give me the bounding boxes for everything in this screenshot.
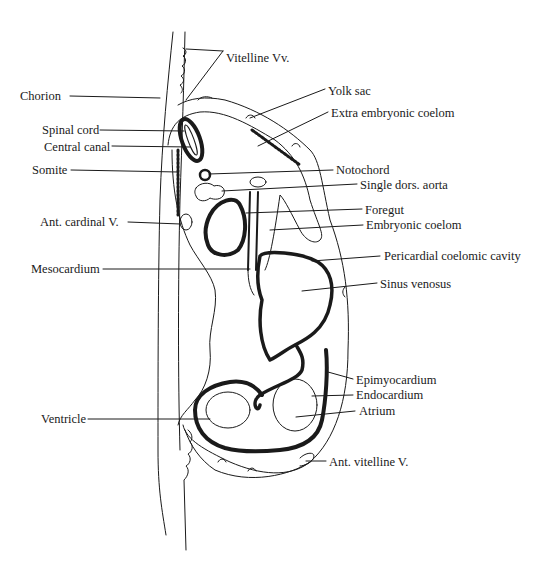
- leader-cardinal: [128, 222, 180, 224]
- label-pericardial-coelomic-cavity: Pericardial coelomic cavity: [384, 249, 521, 263]
- chorion-wall: [158, 32, 173, 535]
- label-epimyocardium: Epimyocardium: [356, 373, 437, 387]
- atrium-endocardium: [273, 379, 317, 431]
- leader-aorta: [222, 184, 357, 191]
- label-ventricle: Ventricle: [41, 412, 86, 426]
- label-notochord: Notochord: [336, 163, 389, 177]
- label-extra-embryonic-coelom: Extra embryonic coelom: [331, 106, 455, 120]
- label-yolk-sac: Yolk sac: [328, 84, 371, 98]
- ventricle-endocardium: [206, 392, 250, 428]
- label-somite: Somite: [32, 163, 67, 177]
- label-chorion: Chorion: [20, 89, 61, 103]
- spinal-cord-shape: [175, 116, 207, 164]
- label-ant-cardinal-v: Ant. cardinal V.: [40, 215, 119, 229]
- leader-notochord: [209, 170, 333, 174]
- leader-pericardial: [312, 256, 380, 261]
- label-single-dors-aorta: Single dors. aorta: [360, 178, 448, 192]
- leader-embryonic-coelom: [270, 225, 363, 230]
- label-embryonic-coelom: Embryonic coelom: [366, 218, 461, 232]
- label-ant-vitelline-v: Ant. vitelline V.: [329, 455, 408, 469]
- label-vitelline-vv: Vitelline Vv.: [226, 51, 289, 65]
- leader-chorion: [70, 96, 160, 98]
- leader-central-canal: [112, 146, 190, 147]
- label-atrium: Atrium: [359, 404, 395, 418]
- leader-endocardium: [312, 395, 353, 396]
- leader-yolk-sac: [250, 89, 325, 118]
- notochord-shape: [200, 170, 210, 180]
- label-endocardium: Endocardium: [356, 388, 423, 402]
- label-spinal-cord: Spinal cord: [42, 123, 99, 137]
- leader-sinus-venosus: [302, 283, 377, 291]
- leader-vitelline: [186, 49, 223, 100]
- cardinal-vein-shape: [180, 214, 192, 230]
- leader-somite: [71, 170, 178, 172]
- aorta-shape: [195, 183, 225, 201]
- label-central-canal: Central canal: [44, 140, 110, 154]
- leader-atrium: [296, 411, 355, 417]
- label-foregut: Foregut: [365, 203, 404, 217]
- diagram-artwork: [0, 0, 554, 585]
- label-mesocardium: Mesocardium: [31, 262, 100, 276]
- leader-foregut: [246, 209, 362, 213]
- foregut-shape: [206, 200, 246, 255]
- label-sinus-venosus: Sinus venosus: [380, 277, 451, 291]
- leader-extra-coelom: [258, 112, 328, 146]
- embryo-heart-diagram: Chorion Spinal cord Central canal Somite…: [0, 0, 554, 585]
- leader-epimyocardium: [328, 372, 353, 379]
